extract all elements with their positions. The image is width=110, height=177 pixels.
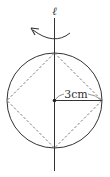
dimension-arc-left bbox=[55, 94, 64, 100]
rotation-arrow-icon bbox=[33, 30, 70, 39]
rotation-diagram: ℓ 3cm bbox=[0, 0, 110, 177]
center-point bbox=[53, 99, 57, 103]
radius-label: 3cm bbox=[64, 88, 88, 101]
axis-label: ℓ bbox=[52, 5, 57, 18]
dimension-arc-right bbox=[88, 94, 101, 100]
